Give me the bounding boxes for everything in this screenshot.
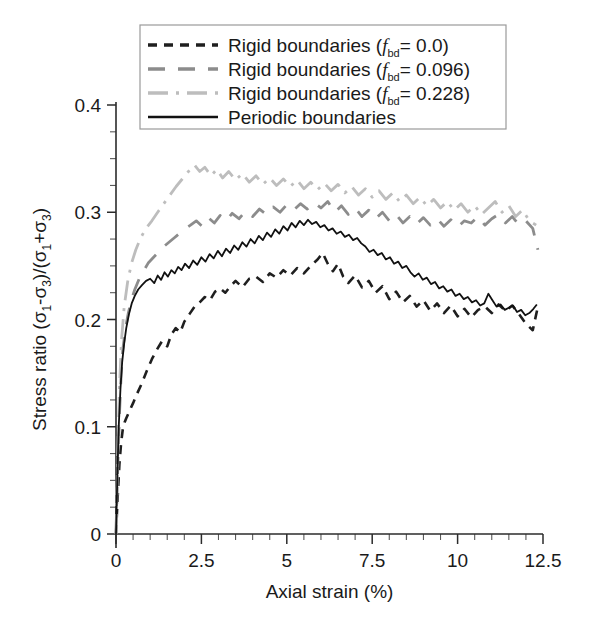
y-tick-label: 0.2 xyxy=(75,310,101,331)
legend-label-1: Rigid boundaries (fbd= 0.096) xyxy=(228,59,470,83)
legend-label-2: Rigid boundaries (fbd= 0.228) xyxy=(228,83,470,107)
x-tick-label: 2.5 xyxy=(188,550,214,571)
legend-label-3: Periodic boundaries xyxy=(228,107,396,128)
y-tick-label: 0.4 xyxy=(75,95,102,116)
x-tick-label: 7.5 xyxy=(359,550,385,571)
y-tick-label: 0.3 xyxy=(75,202,101,223)
chart-legend: Rigid boundaries (fbd= 0.0)Rigid boundar… xyxy=(140,25,506,129)
x-tick-label: 12.5 xyxy=(525,550,562,571)
chart-figure: 00.10.20.30.4 02.557.51012.5 Axial strai… xyxy=(0,0,589,617)
x-axis-title: Axial strain (%) xyxy=(266,581,394,602)
legend-label-0: Rigid boundaries (fbd= 0.0) xyxy=(228,35,449,59)
x-tick-label: 5 xyxy=(282,550,293,571)
y-tick-label: 0.1 xyxy=(75,417,101,438)
x-tick-label: 10 xyxy=(447,550,468,571)
x-tick-label: 0 xyxy=(111,550,122,571)
stress-ratio-vs-axial-strain-chart: 00.10.20.30.4 02.557.51012.5 Axial strai… xyxy=(0,0,589,617)
y-tick-label: 0 xyxy=(90,524,101,545)
